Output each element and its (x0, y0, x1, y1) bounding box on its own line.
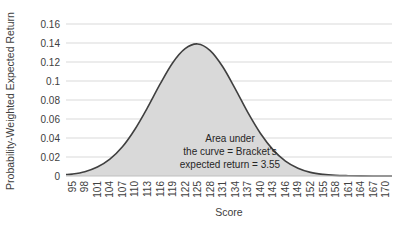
x-tick-label: 152 (305, 181, 316, 198)
x-axis-tick-labels: 9598101104107110113116119122125128131134… (67, 181, 391, 198)
annotation-line-3: expected return = 3.55 (160, 158, 300, 171)
x-tick-label: 101 (92, 181, 103, 198)
x-tick-label: 164 (355, 181, 366, 198)
y-tick-label: 0.06 (41, 114, 61, 125)
y-tick-label: 0.12 (41, 57, 61, 68)
x-tick-label: 170 (380, 181, 391, 198)
annotation-line-2: the curve = Bracket's (160, 145, 300, 158)
x-tick-label: 110 (129, 181, 140, 197)
x-tick-label: 131 (217, 181, 228, 198)
x-tick-label: 149 (292, 181, 303, 198)
x-axis-title: Score (66, 206, 392, 218)
x-tick-label: 113 (142, 181, 153, 197)
x-tick-label: 155 (318, 181, 329, 198)
x-tick-label: 143 (267, 181, 278, 198)
x-tick-label: 134 (230, 181, 241, 198)
x-tick-label: 119 (167, 181, 178, 197)
y-tick-label: 0 (54, 171, 60, 182)
area-chart: 00.020.040.060.080.10.120.140.16 9598101… (0, 0, 414, 228)
y-tick-label: 0.1 (46, 76, 60, 87)
y-axis-title: Probability-Weighted Expected Return (2, 16, 18, 186)
x-tick-label: 104 (104, 181, 115, 198)
x-tick-label: 167 (368, 181, 379, 198)
y-tick-label: 0.08 (41, 95, 61, 106)
x-tick-label: 140 (255, 181, 266, 198)
x-tick-label: 122 (180, 181, 191, 198)
x-tick-label: 128 (205, 181, 216, 198)
x-tick-label: 158 (330, 181, 341, 198)
x-tick-label: 107 (117, 181, 128, 198)
y-axis-tick-labels: 00.020.040.060.080.10.120.140.16 (41, 19, 61, 182)
x-tick-label: 161 (343, 181, 354, 198)
x-tick-label: 146 (280, 181, 291, 198)
x-tick-label: 98 (79, 181, 90, 193)
x-tick-label: 125 (192, 181, 203, 198)
x-tick-label: 116 (155, 181, 166, 197)
annotation-line-1: Area under (160, 132, 300, 145)
y-tick-label: 0.14 (41, 38, 61, 49)
x-tick-label: 95 (67, 181, 78, 193)
x-tick-label: 137 (242, 181, 253, 198)
y-tick-label: 0.02 (41, 152, 61, 163)
y-tick-label: 0.04 (41, 133, 61, 144)
area-annotation: Area under the curve = Bracket's expecte… (160, 132, 300, 171)
y-tick-label: 0.16 (41, 19, 61, 30)
y-axis-title-text: Probability-Weighted Expected Return (4, 12, 16, 190)
